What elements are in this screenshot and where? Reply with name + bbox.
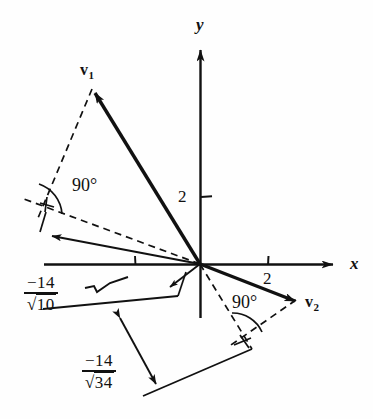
leader-line-v1-label (85, 277, 128, 292)
projection-v2-construction (43, 264, 296, 396)
y-axis-tick-label-2: 2 (178, 188, 187, 205)
vector-v1-arrow (95, 93, 200, 264)
dashed-projection-line-v1 (24, 199, 200, 264)
projection-length-v1-label: −14 √10 (24, 274, 58, 313)
measure-rail-lower-v2 (143, 349, 252, 396)
foot-tick-v1-b (45, 197, 47, 212)
projection-v2-tick (178, 272, 186, 296)
fraction-v2-denominator: √34 (82, 373, 116, 391)
y-axis-tick-2 (201, 196, 212, 197)
vector-v1-label-subscript: 1 (88, 69, 94, 81)
projection-arrow-v1 (52, 236, 200, 264)
figure-canvas (0, 0, 373, 419)
fraction-v1: −14 √10 (24, 274, 58, 313)
vector-v1-label: v1 (80, 62, 94, 81)
vector-v2-label-main: v (305, 293, 313, 310)
x-axis-tick-negative (135, 256, 136, 265)
fraction-v1-denominator: √10 (24, 295, 58, 313)
projection-v1-construction (24, 89, 200, 264)
y-axis-label: y (196, 16, 204, 33)
vector-projection-figure: y x 2 2 v1 v2 90° 90° −14 √10 −14 √34 (0, 0, 373, 419)
angle-label-upper: 90° (72, 176, 97, 194)
projection-length-v2-label: −14 √34 (82, 352, 116, 391)
x-axis-label: x (350, 255, 359, 272)
sqrt-glyph-v2-icon: √34 (84, 373, 114, 392)
x-axis-tick-label-2: 2 (263, 270, 272, 287)
projection-v1-end-cap (40, 212, 46, 232)
vector-v1-group (95, 93, 200, 264)
x-axis-tick-2 (268, 256, 269, 265)
angle-label-lower: 90° (232, 293, 257, 311)
right-angle-arc-v2 (232, 313, 262, 332)
vector-v2-label: v2 (305, 294, 319, 313)
fraction-v1-numerator: −14 (24, 274, 58, 292)
dimension-arrow-v2 (120, 318, 156, 384)
vector-v2-label-subscript: 2 (313, 301, 319, 313)
fraction-v2-radicand: 34 (94, 372, 114, 392)
measure-rail-upper-v2 (43, 296, 178, 309)
fraction-v2-numerator: −14 (82, 352, 116, 370)
vector-v1-label-main: v (80, 61, 88, 78)
leader-squiggle (85, 277, 128, 292)
fraction-v2: −14 √34 (82, 352, 116, 391)
sqrt-glyph-v1-icon: √10 (26, 295, 56, 314)
fraction-v1-radicand: 10 (36, 294, 56, 314)
